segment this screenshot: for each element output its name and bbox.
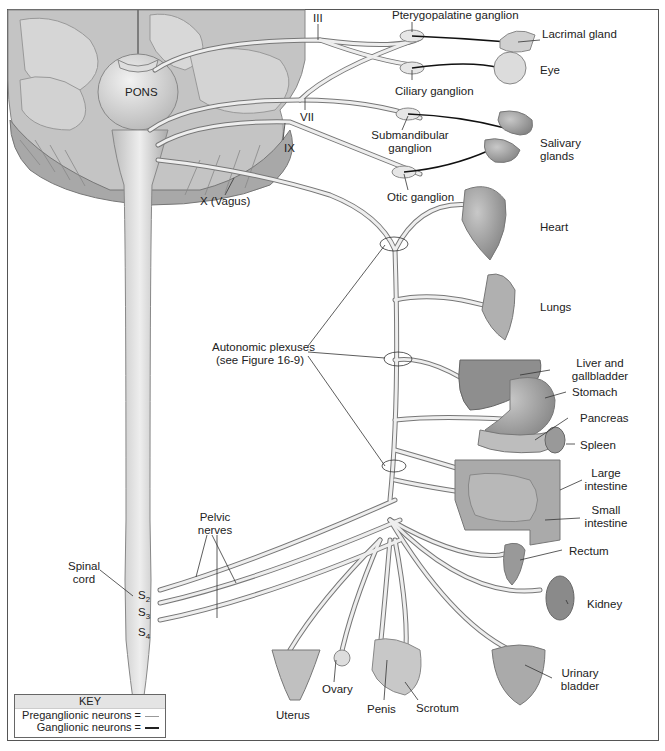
label-eye: Eye — [540, 64, 560, 77]
ganglia — [392, 30, 424, 178]
label-spleen: Spleen — [580, 439, 616, 452]
legend-item-preganglionic: Preganglionic neurons = — [15, 709, 165, 721]
label-spinal-cord: Spinal cord — [64, 560, 104, 586]
label-rectum: Rectum — [569, 545, 609, 558]
label-s2: S2 — [138, 589, 150, 606]
label-liver-gallbladder: Liver and gallbladder — [566, 357, 634, 383]
ganglionic-line-swatch — [145, 727, 159, 729]
urinary-bladder — [492, 645, 545, 705]
label-ovary: Ovary — [322, 683, 353, 696]
lacrimal-gland — [500, 31, 535, 52]
uterus — [272, 650, 320, 700]
small-intestine — [468, 473, 537, 521]
label-small-intestine: Small intestine — [576, 504, 636, 530]
salivary-gland-2 — [484, 139, 520, 163]
legend-item-ganglionic: Ganglionic neurons = — [15, 721, 165, 733]
label-s3: S3 — [138, 606, 150, 623]
label-penis: Penis — [367, 703, 396, 716]
label-stomach: Stomach — [572, 386, 617, 399]
label-urinary-bladder: Urinary bladder — [555, 667, 605, 693]
label-salivary-glands: Salivary glands — [540, 137, 581, 163]
label-cn9: IX — [284, 142, 295, 155]
label-kidney: Kidney — [587, 598, 622, 611]
label-cn3: III — [313, 12, 323, 25]
label-uterus: Uterus — [276, 709, 310, 722]
label-pancreas: Pancreas — [580, 412, 629, 425]
label-s4: S4 — [138, 626, 150, 643]
legend-title: KEY — [15, 695, 165, 709]
label-pelvic-nerves: Pelvic nerves — [190, 511, 240, 537]
preganglionic-line-swatch — [145, 716, 159, 717]
label-large-intestine: Large intestine — [576, 467, 636, 493]
label-autonomic-plexuses: Autonomic plexuses (see Figure 16-9) — [212, 341, 308, 367]
label-heart: Heart — [540, 221, 568, 234]
label-pterygopalatine-ganglion: Pterygopalatine ganglion — [392, 9, 519, 22]
label-otic-ganglion: Otic ganglion — [387, 191, 454, 204]
kidney — [546, 576, 574, 620]
label-lungs: Lungs — [540, 301, 571, 314]
ovary — [334, 650, 350, 666]
label-submandibular-ganglion: Submandibular ganglion — [370, 129, 450, 155]
label-vagus: X (Vagus) — [200, 195, 250, 208]
label-cn7: VII — [300, 111, 314, 124]
label-lacrimal-gland: Lacrimal gland — [542, 28, 617, 41]
eye — [494, 52, 526, 84]
salivary-gland-1 — [498, 111, 533, 135]
label-pons: PONS — [125, 86, 158, 99]
lungs — [482, 274, 515, 340]
penis-scrotum — [372, 639, 421, 695]
legend-key: KEY Preganglionic neurons = Ganglionic n… — [14, 694, 166, 738]
rectum — [504, 543, 525, 585]
label-scrotum: Scrotum — [416, 702, 459, 715]
heart — [462, 187, 506, 260]
label-ciliary-ganglion: Ciliary ganglion — [395, 85, 474, 98]
